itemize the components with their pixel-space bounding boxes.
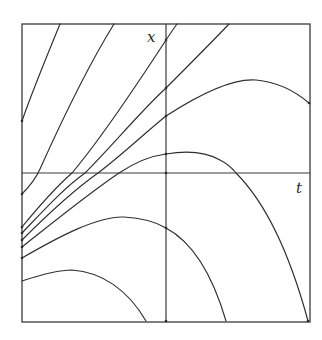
marked-point <box>165 87 168 90</box>
marked-point <box>165 172 168 175</box>
marked-point <box>21 246 24 249</box>
marked-point <box>165 227 168 230</box>
solution-curve-2 <box>22 24 114 194</box>
marked-point <box>165 153 168 156</box>
x-axis-label: x <box>147 30 155 45</box>
marked-point <box>21 257 24 260</box>
solution-curve-4 <box>22 24 229 233</box>
marked-point <box>21 239 24 242</box>
marked-point <box>308 102 311 105</box>
marked-point <box>21 193 24 196</box>
marked-point <box>21 120 24 123</box>
marked-point <box>165 39 168 42</box>
solution-curve-7 <box>22 217 226 321</box>
marked-point <box>21 232 24 235</box>
marked-point <box>165 115 168 118</box>
marked-point <box>21 226 24 229</box>
solution-curve-8 <box>22 270 146 321</box>
marked-point <box>165 320 168 323</box>
solution-curve-6 <box>22 152 308 321</box>
solution-curve-1 <box>22 24 60 121</box>
solution-curves-diagram <box>0 0 322 340</box>
marked-point <box>307 320 310 323</box>
t-axis-label: t <box>296 181 302 196</box>
